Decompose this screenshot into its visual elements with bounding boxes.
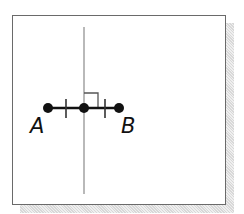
point-b xyxy=(114,103,124,113)
label-b: B xyxy=(121,114,135,138)
label-a: A xyxy=(28,114,44,138)
point-midpoint xyxy=(79,103,89,113)
point-a xyxy=(43,103,53,113)
perpendicular-bisector-diagram: A B xyxy=(0,0,244,214)
